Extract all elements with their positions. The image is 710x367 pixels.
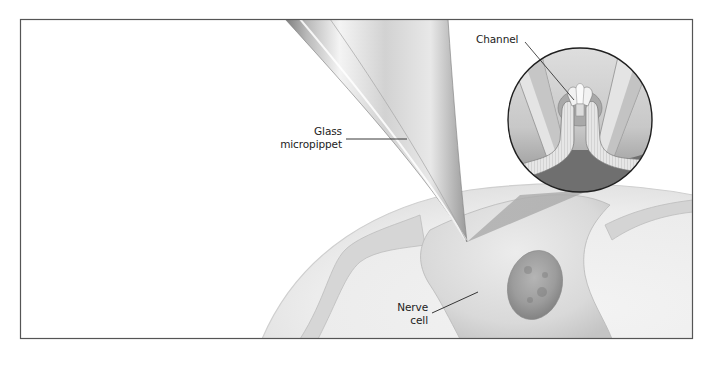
cell-label-line2: cell: [380, 314, 428, 327]
pipette-label-line1: Glass: [270, 125, 342, 138]
patch-clamp-illustration: [0, 0, 710, 367]
cell-label-line1: Nerve: [380, 301, 428, 314]
channel-label: Channel: [476, 33, 518, 46]
pipette-label: Glass micropippet: [270, 125, 342, 151]
cell-label: Nerve cell: [380, 301, 428, 327]
channel-label-text: Channel: [476, 33, 518, 46]
pipette-label-line2: micropippet: [270, 138, 342, 151]
